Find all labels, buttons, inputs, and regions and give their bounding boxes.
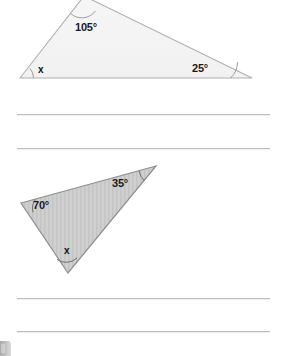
triangle-2-label-70: 70° xyxy=(33,199,49,211)
triangle-1-label-105: 105° xyxy=(75,21,97,33)
answer-line-4 xyxy=(17,331,270,332)
triangle-1 xyxy=(20,0,252,78)
triangle-2 xyxy=(21,166,156,273)
answer-line-2 xyxy=(17,148,270,149)
triangle-2-label-x: x xyxy=(64,245,70,256)
triangle-2-shape xyxy=(21,166,156,273)
answer-line-1 xyxy=(17,114,270,115)
worksheet-page: 105° x 25° 70° 35° x xyxy=(0,0,287,356)
figures-canvas xyxy=(0,0,287,356)
triangle-2-label-35: 35° xyxy=(112,177,128,189)
triangle-1-shape xyxy=(20,0,252,78)
clipped-corner-glyph xyxy=(0,341,11,356)
triangle-1-label-25: 25° xyxy=(192,62,208,74)
answer-line-3 xyxy=(17,298,270,299)
triangle-1-label-x: x xyxy=(38,64,44,75)
